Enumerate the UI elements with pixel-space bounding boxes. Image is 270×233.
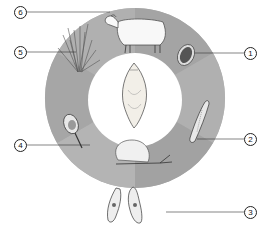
label-2: 2 (244, 133, 257, 146)
label-5: 5 (14, 46, 27, 59)
life-cycle-diagram (0, 0, 270, 233)
redia-icon (107, 187, 141, 223)
label-3: 3 (244, 206, 257, 219)
label-4: 4 (14, 139, 27, 152)
label-6: 6 (14, 6, 27, 19)
label-1: 1 (244, 47, 257, 60)
